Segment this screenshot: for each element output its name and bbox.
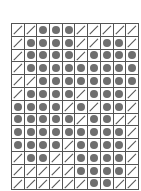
- filled-circle-icon: [65, 115, 73, 123]
- grid-cell: [12, 126, 25, 139]
- filled-circle-icon: [90, 64, 98, 72]
- filled-circle-icon: [39, 39, 47, 47]
- grid-cell: [12, 62, 25, 75]
- filled-circle-icon: [52, 64, 60, 72]
- diagonal-slash-icon: [50, 165, 62, 177]
- diagonal-slash-icon: [63, 101, 75, 113]
- grid-cell: [75, 24, 88, 37]
- grid-cell: [101, 114, 114, 127]
- filled-circle-icon: [103, 103, 111, 111]
- grid-cell: [88, 37, 101, 50]
- filled-circle-icon: [52, 128, 60, 136]
- filled-circle-icon: [77, 167, 85, 175]
- grid-cell: [75, 126, 88, 139]
- grid-cell: [37, 62, 50, 75]
- grid-cell: [126, 139, 139, 152]
- grid-cell: [12, 24, 25, 37]
- grid-cell: [37, 178, 50, 191]
- grid-cell: [37, 165, 50, 178]
- diagonal-slash-icon: [114, 114, 126, 126]
- filled-circle-icon: [52, 26, 60, 34]
- filled-circle-icon: [103, 64, 111, 72]
- grid-cell: [101, 126, 114, 139]
- grid-cell: [75, 75, 88, 88]
- filled-circle-icon: [52, 103, 60, 111]
- grid-cell: [37, 37, 50, 50]
- grid-cell: [63, 101, 76, 114]
- filled-circle-icon: [52, 90, 60, 98]
- grid-cell: [114, 88, 127, 101]
- filled-circle-icon: [39, 64, 47, 72]
- diagonal-slash-icon: [25, 178, 37, 190]
- grid-cell: [12, 114, 25, 127]
- filled-circle-icon: [90, 141, 98, 149]
- filled-circle-icon: [27, 115, 35, 123]
- filled-circle-icon: [65, 128, 73, 136]
- grid-cell: [50, 126, 63, 139]
- diagonal-slash-icon: [12, 88, 24, 100]
- diagonal-slash-icon: [126, 101, 138, 113]
- grid-cell: [101, 24, 114, 37]
- diagonal-slash-icon: [75, 37, 87, 49]
- grid-cell: [25, 114, 38, 127]
- filled-circle-icon: [103, 51, 111, 59]
- diagonal-slash-icon: [126, 139, 138, 151]
- grid-cell: [126, 152, 139, 165]
- filled-circle-icon: [39, 141, 47, 149]
- grid-cell: [88, 62, 101, 75]
- diagonal-slash-icon: [75, 88, 87, 100]
- filled-circle-icon: [39, 77, 47, 85]
- grid-cell: [50, 37, 63, 50]
- filled-circle-icon: [115, 77, 123, 85]
- diagonal-slash-icon: [12, 165, 24, 177]
- grid-cell: [126, 37, 139, 50]
- grid-cell: [101, 75, 114, 88]
- filled-circle-icon: [27, 39, 35, 47]
- filled-circle-icon: [77, 64, 85, 72]
- filled-circle-icon: [52, 51, 60, 59]
- diagonal-slash-icon: [37, 165, 49, 177]
- grid-cell: [25, 101, 38, 114]
- grid-cell: [63, 62, 76, 75]
- filled-circle-icon: [90, 51, 98, 59]
- diagonal-slash-icon: [25, 24, 37, 36]
- diagonal-slash-icon: [12, 178, 24, 190]
- filled-circle-icon: [115, 90, 123, 98]
- diagonal-slash-icon: [88, 37, 100, 49]
- filled-circle-icon: [90, 77, 98, 85]
- diagonal-slash-icon: [12, 24, 24, 36]
- filled-circle-icon: [65, 26, 73, 34]
- grid-cell: [25, 75, 38, 88]
- grid-cell: [101, 101, 114, 114]
- filled-circle-icon: [39, 26, 47, 34]
- grid-cell: [126, 75, 139, 88]
- diagonal-slash-icon: [75, 114, 87, 126]
- filled-circle-icon: [65, 90, 73, 98]
- filled-circle-icon: [77, 128, 85, 136]
- grid-cell: [37, 88, 50, 101]
- grid-cell: [37, 139, 50, 152]
- filled-circle-icon: [103, 115, 111, 123]
- diagonal-slash-icon: [126, 88, 138, 100]
- grid-cell: [88, 114, 101, 127]
- filled-circle-icon: [14, 115, 22, 123]
- grid-cell: [101, 37, 114, 50]
- grid-cell: [126, 165, 139, 178]
- grid-cell: [75, 101, 88, 114]
- grid-cell: [12, 165, 25, 178]
- grid-cell: [75, 114, 88, 127]
- filled-circle-icon: [90, 167, 98, 175]
- grid-cell: [126, 50, 139, 63]
- grid-cell: [12, 37, 25, 50]
- filled-circle-icon: [27, 128, 35, 136]
- filled-circle-icon: [103, 154, 111, 162]
- grid-cell: [12, 178, 25, 191]
- grid-cell: [88, 101, 101, 114]
- diagonal-slash-icon: [88, 24, 100, 36]
- grid-cell: [63, 37, 76, 50]
- filled-circle-icon: [39, 154, 47, 162]
- grid-cell: [114, 101, 127, 114]
- grid-cell: [25, 24, 38, 37]
- grid-cell: [25, 139, 38, 152]
- filled-circle-icon: [115, 154, 123, 162]
